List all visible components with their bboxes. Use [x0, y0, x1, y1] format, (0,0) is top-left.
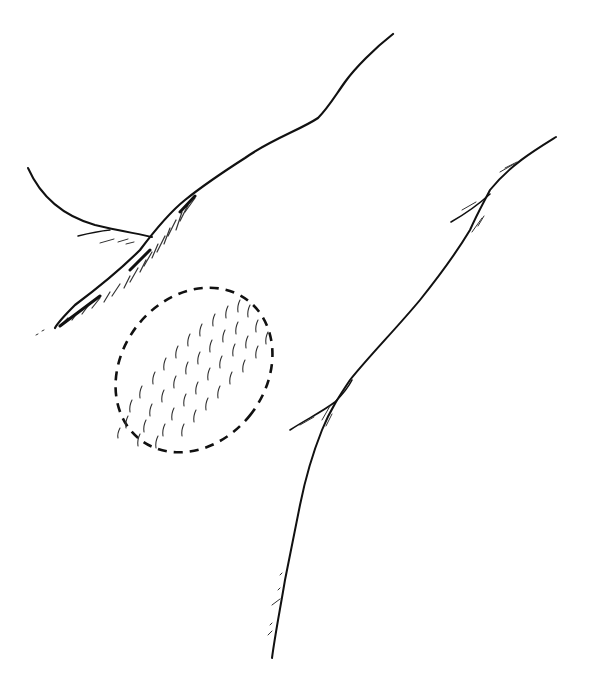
edge-dots — [36, 330, 44, 335]
drawing-canvas — [0, 0, 595, 676]
right-limb-contour — [272, 137, 556, 658]
fold-crease — [78, 230, 110, 236]
upper-branch-hatching — [462, 162, 517, 232]
anatomical-sketch — [0, 0, 595, 676]
lower-branch-fold — [290, 380, 352, 430]
upper-branch-fold — [451, 194, 490, 222]
fold-hatching — [100, 239, 134, 244]
left-fold-curve — [28, 168, 152, 237]
upper-body-contour — [55, 34, 393, 328]
